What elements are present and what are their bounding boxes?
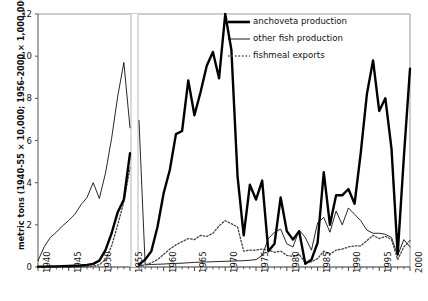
- data-series: [38, 14, 410, 267]
- legend-label: other fish production: [253, 33, 343, 43]
- x-tick-label: 1990: [352, 251, 362, 273]
- scale-break-band: [130, 14, 139, 267]
- plot-canvas: [0, 0, 428, 301]
- series-line-other-fish-production: [38, 62, 130, 260]
- x-tick-label: 1960: [168, 251, 178, 273]
- y-tick-label: 4: [10, 178, 32, 188]
- y-tick-label: 2: [10, 220, 32, 230]
- x-tick-label: 1955: [134, 251, 144, 273]
- y-tick-label: 0: [10, 262, 32, 272]
- x-tick-label: 1945: [73, 251, 83, 273]
- x-tick-label: 1975: [260, 251, 270, 273]
- y-tick-label: 12: [10, 9, 32, 19]
- y-tick-label: 8: [10, 93, 32, 103]
- legend-label: anchoveta production: [253, 16, 347, 26]
- x-tick-label: 1965: [198, 251, 208, 273]
- fishery-production-chart: metric tons (1940-55 × 10,000; 1956-2000…: [0, 0, 428, 301]
- series-line-anchoveta-production: [38, 153, 130, 266]
- y-tick-label: 10: [10, 51, 32, 61]
- x-tick-label: 1980: [291, 251, 301, 273]
- x-tick-label: 1995: [383, 251, 393, 273]
- y-tick-label: 6: [10, 136, 32, 146]
- x-tick-label: 1940: [42, 251, 52, 273]
- x-tick-label: 1950: [103, 251, 113, 273]
- plot-frame: [38, 14, 410, 267]
- x-tick-label: 1985: [322, 251, 332, 273]
- x-tick-label: 1970: [229, 251, 239, 273]
- legend-label: fishmeal exports: [253, 50, 325, 60]
- x-tick-label: 2000: [414, 251, 424, 273]
